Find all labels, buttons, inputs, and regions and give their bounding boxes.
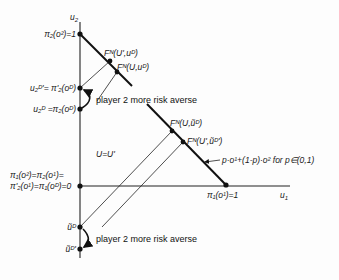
point-u2D-prime bbox=[77, 85, 82, 90]
diagram-canvas: u2 u1 π₂(o²)=1 u₂ᴰ'= π'₂(oᴰ) u₂ᴰ =π₂(oᴰ)… bbox=[0, 0, 339, 280]
annotation-risk-averse-lower: player 2 more risk averse bbox=[96, 234, 197, 244]
thin-line-utildeD bbox=[80, 131, 172, 227]
x-axis-label: u1 bbox=[280, 190, 288, 201]
risk-averse-arrow-upper bbox=[82, 90, 90, 108]
point-FN-U-utildeD bbox=[170, 129, 175, 134]
risk-averse-arrow-lower bbox=[83, 229, 88, 247]
frontier-line-upper bbox=[80, 34, 132, 86]
label-pi2-o2: π₂(o²)=1 bbox=[44, 29, 76, 39]
label-FN-Uprime-uD: Fᴺ(U',uᴰ) bbox=[104, 48, 138, 58]
point-origin bbox=[77, 183, 82, 188]
label-u2D-prime: u₂ᴰ'= π'₂(oᴰ) bbox=[30, 83, 76, 93]
thin-line-uDprime bbox=[80, 61, 110, 88]
y-axis-label: u2 bbox=[70, 12, 79, 23]
point-FN-Uprime-utildeDprime bbox=[181, 140, 186, 145]
label-origin-line2: π'₂(o¹)=π₁(oᴰ)=0 bbox=[10, 181, 72, 191]
annotation-U-equals: U=U' bbox=[96, 149, 115, 159]
point-pi1-o1 bbox=[223, 182, 228, 187]
label-origin-line1: π₁(o²)=π₂(o¹)= bbox=[10, 170, 64, 180]
point-utildeD-prime bbox=[77, 246, 82, 251]
label-FN-U-uD: Fᴺ(U,uᴰ) bbox=[117, 62, 149, 72]
label-utildeD: ũᴰ bbox=[67, 222, 77, 232]
point-pi2-o2 bbox=[77, 31, 82, 36]
lottery-pointer bbox=[205, 160, 220, 162]
label-u2D: u₂ᴰ =π₂(oᴰ) bbox=[33, 104, 76, 114]
label-FN-Uprime-utildeDprime: Fᴺ(U',ũᴰ') bbox=[187, 136, 223, 146]
label-pi1-o1: π₁(o¹)=1 bbox=[207, 190, 239, 200]
label-utildeD-prime: ũᴰ' bbox=[66, 244, 77, 254]
annotation-risk-averse-upper: player 2 more risk averse bbox=[96, 95, 197, 105]
bargaining-diagram: u2 u1 π₂(o²)=1 u₂ᴰ'= π'₂(oᴰ) u₂ᴰ =π₂(oᴰ)… bbox=[0, 0, 339, 280]
point-utildeD bbox=[77, 224, 82, 229]
label-FN-U-utildeD: Fᴺ(U,ũᴰ) bbox=[170, 118, 202, 128]
point-FN-Uprime-uD bbox=[108, 59, 113, 64]
annotation-lottery-line: p·o¹+(1-p)·o² for p∈(0,1) bbox=[221, 155, 314, 165]
